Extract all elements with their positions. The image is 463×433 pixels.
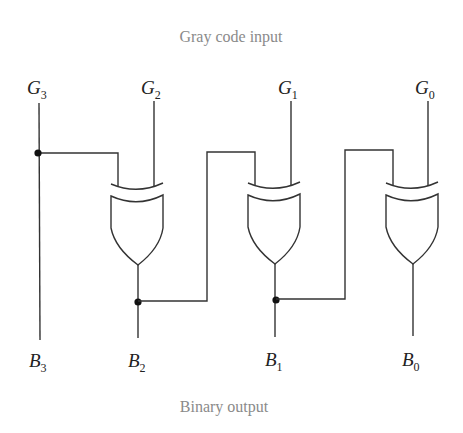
input-caption: Gray code input xyxy=(179,28,283,46)
xor-gate-3 xyxy=(386,182,438,264)
svg-text:B1: B1 xyxy=(265,349,283,374)
junction-dot-b2 xyxy=(134,298,141,305)
output-caption: Binary output xyxy=(180,398,269,416)
input-label-g2: G2 xyxy=(141,77,161,102)
output-label-b1: B1 xyxy=(265,349,283,374)
wire-g3-to-gate1 xyxy=(38,153,118,186)
wire-g3-to-b3 xyxy=(39,103,40,340)
output-label-b2: B2 xyxy=(128,350,146,375)
svg-text:B0: B0 xyxy=(402,349,420,374)
svg-text:G1: G1 xyxy=(278,77,298,102)
input-label-g1: G1 xyxy=(278,77,298,102)
input-label-g3: G3 xyxy=(27,77,47,102)
svg-text:B2: B2 xyxy=(128,350,146,375)
output-label-b3: B3 xyxy=(29,350,47,375)
svg-text:G2: G2 xyxy=(141,77,161,102)
svg-text:G0: G0 xyxy=(415,77,435,102)
xor-gate-1 xyxy=(111,183,163,265)
junction-dot-g3 xyxy=(34,149,41,156)
output-label-b0: B0 xyxy=(402,349,420,374)
xor-gate-2 xyxy=(248,182,300,264)
input-label-g0: G0 xyxy=(415,77,435,102)
svg-text:G3: G3 xyxy=(27,77,47,102)
junction-dot-b1 xyxy=(272,296,279,303)
svg-text:B3: B3 xyxy=(29,350,47,375)
gray-to-binary-converter-diagram: Gray code input G3 G2 G1 G0 B3 xyxy=(0,0,463,433)
